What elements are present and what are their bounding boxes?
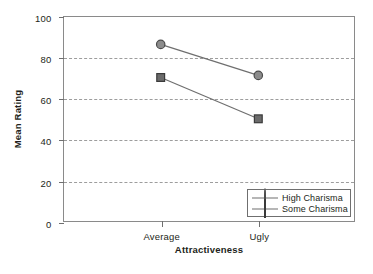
legend-label-high-charisma: High Charisma [282, 193, 343, 203]
series-line-some-charisma [161, 78, 259, 119]
legend-label-some-charisma: Some Charisma [282, 204, 348, 214]
legend-entry-some-charisma: Some Charisma [252, 204, 346, 216]
chart-figure: Mean Rating 100 80 60 40 20 0 Average Ug… [0, 0, 373, 274]
legend-key-some-charisma [252, 204, 278, 215]
data-point-high-charisma-average [157, 40, 165, 48]
data-point-some-charisma-ugly [254, 115, 262, 123]
data-point-some-charisma-average [157, 74, 165, 82]
x-axis-title: Attractiveness [175, 244, 243, 255]
data-series-layer [0, 0, 373, 274]
legend-entry-high-charisma: High Charisma [252, 192, 346, 204]
data-point-high-charisma-ugly [254, 71, 262, 79]
square-marker-icon [264, 200, 266, 218]
series-line-high-charisma [161, 44, 259, 75]
chart-legend: High Charisma Some Charisma [247, 189, 351, 217]
